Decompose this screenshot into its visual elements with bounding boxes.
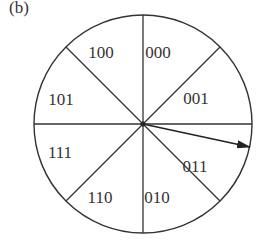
segment-label-011: 011 (183, 157, 208, 176)
segment-label-111: 111 (48, 143, 72, 162)
segment-label-000: 000 (145, 43, 171, 62)
segment-label-100: 100 (88, 43, 114, 62)
pointer-arrow (143, 124, 250, 147)
segment-label-110: 110 (88, 188, 113, 207)
segment-label-101: 101 (48, 90, 74, 109)
segment-label-010: 010 (144, 188, 170, 207)
center-hub (141, 122, 146, 127)
rotary-encoder-diagram: 000001011010110111101100 (0, 0, 256, 242)
segment-label-001: 001 (183, 89, 209, 108)
segment-labels: 000001011010110111101100 (48, 43, 209, 207)
